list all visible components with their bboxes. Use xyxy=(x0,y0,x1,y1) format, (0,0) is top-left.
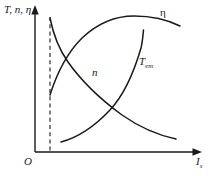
curve-label-n: n xyxy=(92,67,98,78)
curve-label-tem-subscript: em xyxy=(145,62,153,69)
x-axis-label-subscript: s xyxy=(200,162,203,169)
curve-eta xyxy=(50,16,180,95)
curve-label-tem: Tem xyxy=(139,56,153,70)
curve-n xyxy=(50,18,176,139)
y-axis-arrowhead xyxy=(31,5,38,15)
origin-label: O xyxy=(24,156,32,167)
y-axis xyxy=(31,5,38,152)
x-axis-label: Is xyxy=(196,156,202,170)
figure-container: T, n, η Is O η n Tem xyxy=(0,0,218,176)
plot-canvas xyxy=(0,0,218,176)
curve-label-eta: η xyxy=(160,7,166,18)
x-axis xyxy=(35,148,202,155)
y-axis-label: T, n, η xyxy=(4,4,31,15)
